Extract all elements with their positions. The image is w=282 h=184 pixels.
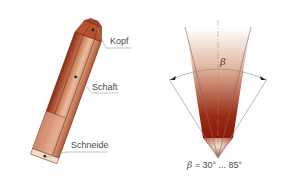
diagram-canvas — [0, 0, 282, 184]
label-kopf: Kopf — [110, 36, 129, 46]
wedge-diagram — [169, 20, 267, 160]
angle-range-formula: β = 30° ... 85° — [187, 160, 242, 170]
label-schneide: Schneide — [71, 140, 109, 150]
angle-symbol-beta: β — [220, 57, 226, 67]
formula-range-text: = 30° ... 85° — [192, 160, 242, 170]
label-schaft: Schaft — [92, 82, 118, 92]
